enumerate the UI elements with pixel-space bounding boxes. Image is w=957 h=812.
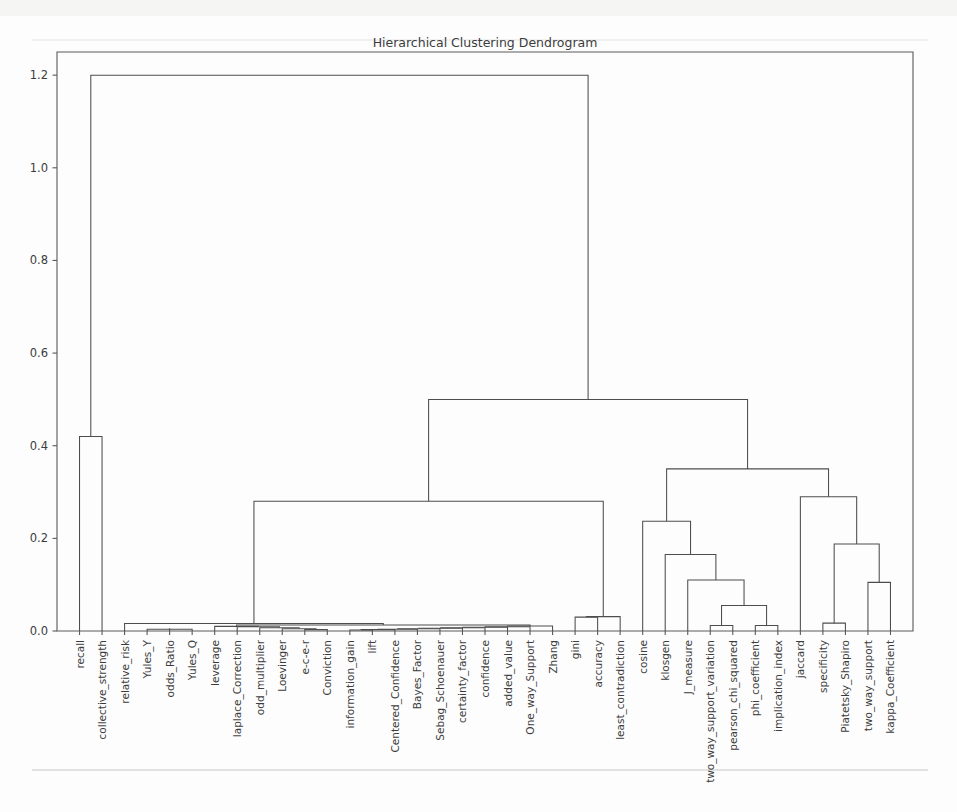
x-tick-label: least_contradiction: [614, 640, 627, 740]
x-tick-label: odds_Ratio: [164, 640, 177, 697]
x-tick-label: Piatetsky_Shapiro: [839, 640, 852, 733]
dendrogram-canvas: Hierarchical Clustering Dendrogram 0.00.…: [0, 0, 957, 812]
x-tick-label: information_gain: [344, 640, 357, 729]
x-tick-label: J_measure: [682, 640, 695, 695]
y-tick-label: 0.0: [30, 624, 48, 638]
x-tick-label: laplace_Correction: [231, 640, 244, 737]
y-tick-label: 0.6: [30, 346, 48, 360]
x-tick-label: kappa_Coefficient: [884, 640, 897, 734]
x-tick-label: jaccard: [794, 640, 806, 679]
x-tick-label: specificity: [817, 640, 829, 693]
x-tick-label: Sebag_Schoenauer: [434, 639, 447, 740]
x-tick-label: Yules_Y: [141, 639, 154, 679]
x-tick-label: relative_risk: [119, 639, 132, 704]
x-tick-label: confidence: [479, 640, 491, 697]
x-tick-label: Yules_Q: [186, 640, 199, 681]
x-tick-label: klosgen: [659, 640, 671, 681]
chart-title: Hierarchical Clustering Dendrogram: [373, 35, 598, 50]
y-tick-label: 1.0: [30, 161, 48, 175]
x-tick-label: leverage: [209, 640, 221, 686]
x-tick-label: One_way_Support: [524, 640, 537, 735]
x-tick-label: gini: [569, 640, 581, 659]
x-tick-label: Centered_Confidence: [389, 640, 402, 753]
x-tick-label: pearson_chi_squared: [727, 640, 740, 751]
x-tick-label: two_way_support_variation: [704, 640, 717, 783]
y-tick-label: 0.4: [30, 439, 48, 453]
x-tick-label: phi_coefficient: [749, 640, 762, 716]
y-tick-label: 0.2: [30, 531, 48, 545]
x-tick-label: odd_multiplier: [254, 639, 267, 715]
x-tick-label: two_way_support: [862, 640, 875, 731]
y-tick-label: 0.8: [30, 253, 48, 267]
x-tick-label: accuracy: [592, 640, 604, 687]
y-tick-label: 1.2: [30, 68, 48, 82]
x-tick-label: Bayes_Factor: [411, 639, 424, 709]
x-tick-label: Conviction: [321, 640, 333, 695]
x-tick-label: collective_strength: [96, 640, 109, 739]
x-tick-label: implication_index: [772, 640, 785, 732]
x-tick-label: lift: [366, 640, 378, 653]
x-tick-label: e-c-e-r: [299, 639, 311, 674]
x-tick-label: Loevinger: [276, 639, 288, 691]
x-tick-label: recall: [74, 640, 86, 669]
x-tick-label: added_value: [502, 640, 515, 707]
x-tick-label: cosine: [637, 640, 649, 674]
x-tick-label: certainty_factor: [456, 639, 469, 723]
dendrogram-figure: Hierarchical Clustering Dendrogram 0.00.…: [0, 0, 957, 812]
x-tick-label: Zhang: [547, 640, 559, 674]
